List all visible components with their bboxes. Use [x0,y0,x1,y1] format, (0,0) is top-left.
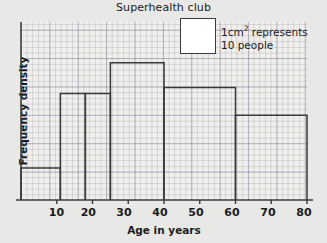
histogram-bar-40-60 [164,88,236,200]
histogram-bar-0-11 [21,168,60,200]
histogram-bar-18-25 [85,93,110,200]
legend-line-1: 1cm2 represents [221,22,308,39]
legend-swatch [180,18,216,54]
legend-text: 1cm2 represents 10 people [221,22,308,52]
histogram-bars [21,63,307,200]
legend-unit: 1cm [221,26,244,38]
histogram-bar-25-40 [110,63,164,200]
histogram-bar-60-80 [236,115,308,200]
legend-line-2: 10 people [221,39,308,52]
histogram-figure: Superhealth club Frequency density Age i… [0,0,327,243]
legend-represents: represents [248,26,307,38]
histogram-bar-11-18 [60,93,85,200]
